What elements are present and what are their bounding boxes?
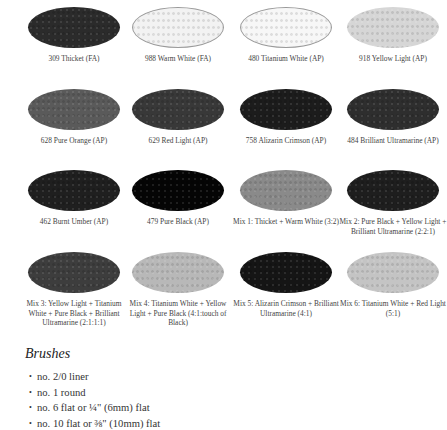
swatch-label: Mix 5: Alizarin Crimson + Brilliant Ultr… [232,299,340,318]
list-item: •no. 6 flat or ¼" (6mm) flat [29,400,160,416]
swatch-warm-white: 988 Warm White (FA) [124,7,232,64]
brush-item-text: no. 1 round [37,387,86,398]
swatch-label: 484 Brilliant Ultramarine (AP) [339,136,447,146]
color-swatch-oval [240,170,332,211]
swatch-label: 309 Thicket (FA) [20,54,128,64]
color-swatch-oval [347,170,439,211]
swatch-red-light: 629 Red Light (AP) [124,89,232,146]
swatch-label: Mix 3: Yellow Light + Titanium White + P… [20,299,128,328]
bullet-icon: • [29,369,37,385]
swatch-mix-5: Mix 5: Alizarin Crimson + Brilliant Ultr… [232,252,340,318]
swatch-alizarin-crimson: 758 Alizarin Crimson (AP) [232,89,340,146]
brushes-heading: Brushes [25,346,160,362]
brushes-list: •no. 2/0 liner •no. 1 round •no. 6 flat … [25,369,160,430]
swatch-mix-1: Mix 1: Thicket + Warm White (3:2) [232,170,340,227]
bullet-icon: • [29,385,37,401]
bullet-icon: • [29,416,37,430]
color-swatch-oval [132,170,224,211]
bullet-icon: • [29,400,37,416]
brush-item-text: no. 2/0 liner [37,371,89,382]
color-swatch-oval [347,89,439,130]
swatch-titanium-white: 480 Titanium White (AP) [232,7,340,64]
swatch-mix-2: Mix 2: Pure Black + Yellow Light + Brill… [339,170,447,236]
color-swatch-oval [28,252,120,293]
swatch-label: 629 Red Light (AP) [124,136,232,146]
color-swatch-oval [240,252,332,293]
swatch-burnt-umber: 462 Burnt Umber (AP) [20,170,128,227]
swatch-label: 758 Alizarin Crimson (AP) [232,136,340,146]
swatch-mix-4: Mix 4: Titanium White + Yellow Light + P… [124,252,232,328]
color-swatch-oval [132,252,224,293]
swatch-label: 628 Pure Orange (AP) [20,136,128,146]
color-swatch-oval [28,7,120,48]
swatch-label: 918 Yellow Light (AP) [339,54,447,64]
brushes-section: Brushes •no. 2/0 liner •no. 1 round •no.… [25,346,160,430]
swatch-label: Mix 2: Pure Black + Yellow Light + Brill… [339,217,447,236]
swatch-brilliant-ultramarine: 484 Brilliant Ultramarine (AP) [339,89,447,146]
list-item: •no. 2/0 liner [29,369,160,385]
swatch-pure-black: 479 Pure Black (AP) [124,170,232,227]
swatch-pure-orange: 628 Pure Orange (AP) [20,89,128,146]
brush-item-text: no. 10 flat or ⅜" (10mm) flat [37,418,160,429]
color-swatch-oval [347,252,439,293]
color-swatch-oval [347,7,439,48]
color-swatch-oval [28,170,120,211]
swatch-mix-6: Mix 6: Titanium White + Red Light (5:1) [339,252,447,318]
swatch-label: Mix 4: Titanium White + Yellow Light + P… [124,299,232,328]
color-swatch-oval [240,7,332,48]
swatch-label: 462 Burnt Umber (AP) [20,217,128,227]
swatch-mix-3: Mix 3: Yellow Light + Titanium White + P… [20,252,128,328]
brush-item-text: no. 6 flat or ¼" (6mm) flat [37,402,150,413]
color-swatch-oval [28,89,120,130]
color-swatch-oval [240,89,332,130]
swatch-label: Mix 1: Thicket + Warm White (3:2) [232,217,340,227]
swatch-thicket: 309 Thicket (FA) [20,7,128,64]
list-item: •no. 10 flat or ⅜" (10mm) flat [29,416,160,430]
color-swatch-oval [132,7,224,48]
list-item: •no. 1 round [29,385,160,401]
swatch-label: 479 Pure Black (AP) [124,217,232,227]
swatch-yellow-light: 918 Yellow Light (AP) [339,7,447,64]
color-swatch-oval [132,89,224,130]
swatch-label: Mix 6: Titanium White + Red Light (5:1) [339,299,447,318]
swatch-label: 988 Warm White (FA) [124,54,232,64]
swatch-label: 480 Titanium White (AP) [232,54,340,64]
